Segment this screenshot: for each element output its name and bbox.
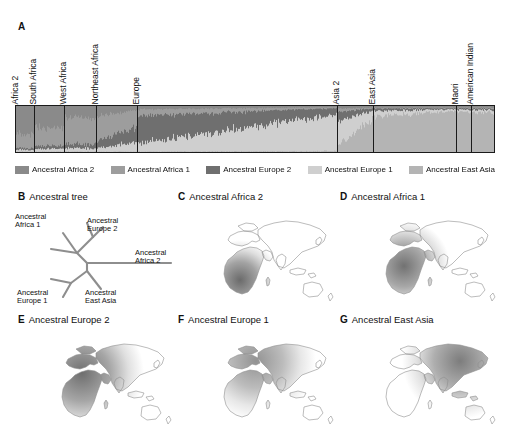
population-divider bbox=[64, 106, 65, 152]
panel-c-letter: C bbox=[178, 192, 185, 202]
ancestry-intensity-overlay bbox=[16, 327, 176, 427]
ancestry-intensity-overlay bbox=[178, 204, 338, 304]
population-divider bbox=[96, 106, 97, 152]
panel-f-header: F Ancestral Europe 1 bbox=[178, 315, 269, 325]
legend-swatch bbox=[15, 166, 29, 174]
ancestry-intensity-overlay bbox=[340, 204, 500, 304]
population-divider bbox=[471, 106, 472, 152]
population-divider bbox=[137, 106, 138, 152]
panel-d-header: D Ancestral Africa 1 bbox=[340, 192, 425, 202]
legend-item: Ancestral Europe 2 bbox=[206, 166, 291, 174]
population-divider bbox=[34, 106, 35, 152]
panel-g-title: Ancestral East Asia bbox=[352, 315, 434, 325]
legend-label: Ancestral Europe 1 bbox=[325, 166, 393, 174]
population-label: Asia 2 bbox=[332, 80, 341, 104]
legend-item: Ancestral Africa 1 bbox=[111, 166, 190, 174]
panel-d-title: Ancestral Africa 1 bbox=[351, 192, 425, 202]
world-map-svg bbox=[340, 327, 500, 427]
world-map-svg bbox=[178, 204, 338, 304]
panel-g-letter: G bbox=[340, 315, 348, 325]
legend-item: Ancestral Africa 2 bbox=[15, 166, 94, 174]
world-map-ancestral-africa-1 bbox=[340, 204, 500, 304]
ancestry-intensity-overlay bbox=[340, 327, 500, 427]
tree-tip-label-east-asia: Ancestral East Asia bbox=[85, 289, 116, 306]
legend-label: Ancestral Europe 2 bbox=[223, 166, 291, 174]
tree-tip-label-africa-2: Ancestral Africa 2 bbox=[135, 249, 166, 266]
structure-barplot-canvas bbox=[16, 106, 494, 152]
population-label: Europe bbox=[131, 77, 140, 104]
legend-swatch bbox=[206, 166, 220, 174]
ancestral-tree: Ancestral Africa 1 Ancestral Europe 2 An… bbox=[15, 205, 175, 310]
panel-f-letter: F bbox=[178, 315, 184, 325]
population-label: Africa 2 bbox=[11, 75, 20, 104]
legend-label: Ancestral Africa 1 bbox=[128, 166, 190, 174]
panel-e-header: E Ancestral Europe 2 bbox=[18, 315, 109, 325]
world-map-svg bbox=[178, 327, 338, 427]
world-map-ancestral-africa-2 bbox=[178, 204, 338, 304]
world-map-ancestral-europe-2 bbox=[16, 327, 176, 427]
world-map-svg bbox=[340, 204, 500, 304]
panel-e-letter: E bbox=[18, 315, 25, 325]
world-map-ancestral-east-asia bbox=[340, 327, 500, 427]
tree-tip-label-europe-1: Ancestral Europe 1 bbox=[17, 289, 48, 306]
legend-swatch bbox=[409, 166, 423, 174]
population-label: West Africa bbox=[58, 61, 67, 104]
tree-tip-label-europe-2: Ancestral Europe 2 bbox=[87, 217, 118, 234]
legend-item: Ancestral East Asia bbox=[409, 166, 495, 174]
panel-f-title: Ancestral Europe 1 bbox=[188, 315, 269, 325]
panel-c-title: Ancestral Africa 2 bbox=[189, 192, 263, 202]
panel-g-header: G Ancestral East Asia bbox=[340, 315, 434, 325]
panel-e-title: Ancestral Europe 2 bbox=[29, 315, 110, 325]
population-label: South Africa bbox=[29, 58, 38, 104]
panel-b-title: Ancestral tree bbox=[29, 192, 88, 202]
ancestry-intensity-overlay bbox=[178, 327, 338, 427]
population-label-row: Africa 2South AfricaWest AfricaNortheast… bbox=[15, 24, 495, 104]
tree-tip-label-africa-1: Ancestral Africa 1 bbox=[15, 213, 46, 230]
panel-d-letter: D bbox=[340, 192, 347, 202]
legend-item: Ancestral Europe 1 bbox=[308, 166, 393, 174]
panel-c-header: C Ancestral Africa 2 bbox=[178, 192, 263, 202]
population-divider bbox=[337, 106, 338, 152]
population-divider bbox=[373, 106, 374, 152]
population-label: East Asia bbox=[367, 69, 376, 104]
population-divider bbox=[456, 106, 457, 152]
legend-label: Ancestral Africa 2 bbox=[32, 166, 94, 174]
legend-label: Ancestral East Asia bbox=[426, 166, 495, 174]
legend-swatch bbox=[111, 166, 125, 174]
population-label: Maori bbox=[451, 83, 460, 104]
panel-b-letter: B bbox=[18, 192, 25, 202]
world-map-svg bbox=[16, 327, 176, 427]
world-map-ancestral-europe-1 bbox=[178, 327, 338, 427]
panel-b-header: B Ancestral tree bbox=[18, 192, 88, 202]
population-label: American Indian bbox=[466, 43, 475, 104]
structure-barplot bbox=[15, 105, 495, 153]
structure-legend: Ancestral Africa 2Ancestral Africa 1Ance… bbox=[15, 163, 495, 176]
legend-swatch bbox=[308, 166, 322, 174]
figure-root: A Africa 2South AfricaWest AfricaNorthea… bbox=[0, 0, 510, 442]
population-label: Northeast Africa bbox=[90, 44, 99, 104]
